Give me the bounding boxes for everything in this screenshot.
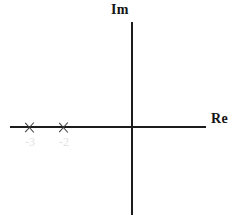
real-axis-line bbox=[10, 126, 206, 128]
imaginary-axis-line bbox=[131, 22, 133, 215]
real-axis-label: Re bbox=[211, 111, 228, 127]
pole-marker bbox=[24, 121, 37, 134]
x-tick-label: -2 bbox=[54, 135, 74, 150]
pole-marker bbox=[58, 121, 71, 134]
x-tick-label: -3 bbox=[20, 135, 40, 150]
imaginary-axis-label: Im bbox=[111, 2, 129, 18]
complex-plane-plot: Im Re -3-2 bbox=[0, 0, 238, 224]
